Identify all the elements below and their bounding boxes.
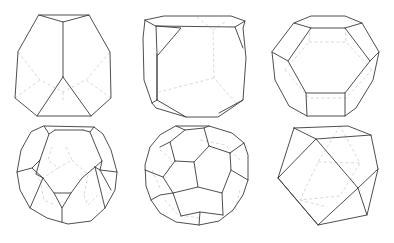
polyhedron-panel-6: [0, 0, 394, 243]
polyhedra-figure: [0, 0, 394, 243]
visible-edges: [278, 126, 378, 225]
